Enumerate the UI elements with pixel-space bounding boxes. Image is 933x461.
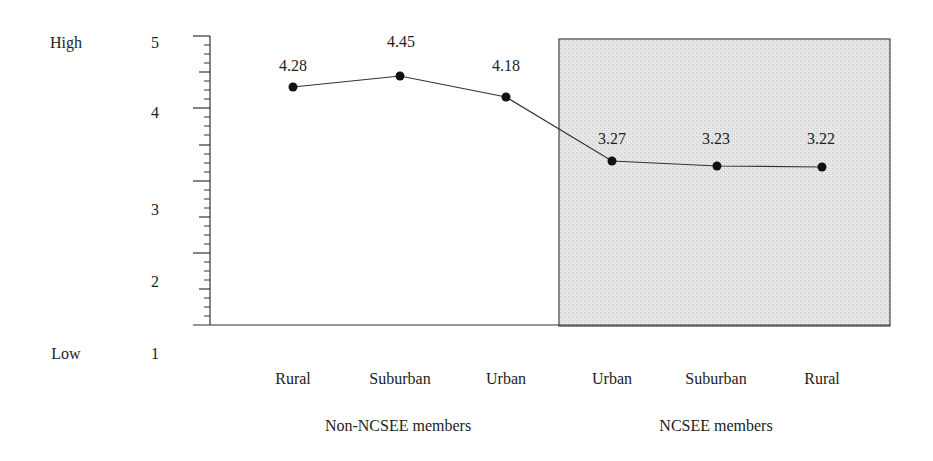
y-tick-1: 1 bbox=[151, 345, 159, 363]
marker-ncsee-urban bbox=[608, 157, 617, 166]
y-high-label: High bbox=[50, 34, 82, 52]
data-label-ncsee-urban: 3.27 bbox=[598, 130, 626, 148]
group-label-non-ncsee: Non-NCSEE members bbox=[325, 417, 471, 435]
data-label-ncsee-rural: 3.22 bbox=[807, 130, 835, 148]
ncsee-shaded-region bbox=[559, 39, 890, 326]
x-category-nonncsee-urban: Urban bbox=[486, 370, 526, 388]
y-tick-5: 5 bbox=[151, 34, 159, 52]
chart-canvas bbox=[0, 0, 933, 461]
x-category-nonncsee-suburban: Suburban bbox=[369, 370, 430, 388]
y-tick-3: 3 bbox=[151, 201, 159, 219]
data-label-nonncsee-urban: 4.18 bbox=[492, 57, 520, 75]
marker-ncsee-suburban bbox=[713, 162, 722, 171]
x-category-ncsee-urban: Urban bbox=[592, 370, 632, 388]
group-label-ncsee: NCSEE members bbox=[659, 417, 772, 435]
x-category-ncsee-suburban: Suburban bbox=[685, 370, 746, 388]
y-tick-4: 4 bbox=[151, 104, 159, 122]
marker-nonncsee-rural bbox=[289, 83, 298, 92]
data-label-ncsee-suburban: 3.23 bbox=[702, 130, 730, 148]
y-tick-2: 2 bbox=[151, 273, 159, 291]
y-axis bbox=[193, 36, 210, 325]
x-category-nonncsee-rural: Rural bbox=[275, 370, 311, 388]
marker-ncsee-rural bbox=[818, 163, 827, 172]
marker-nonncsee-urban bbox=[502, 93, 511, 102]
y-low-label: Low bbox=[51, 345, 80, 363]
data-label-nonncsee-rural: 4.28 bbox=[279, 57, 307, 75]
x-category-ncsee-rural: Rural bbox=[804, 370, 840, 388]
marker-nonncsee-suburban bbox=[396, 72, 405, 81]
data-label-nonncsee-suburban: 4.45 bbox=[387, 33, 415, 51]
